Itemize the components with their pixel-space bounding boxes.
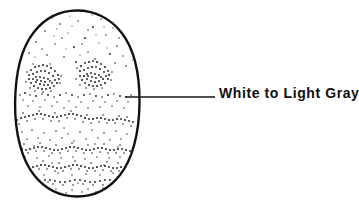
figure-container: White to Light Gray xyxy=(0,0,359,210)
specimen-illustration-svg xyxy=(0,0,359,210)
callout-label-white-to-light-gray: White to Light Gray xyxy=(219,85,359,101)
specimen-body xyxy=(15,10,139,196)
specimen-outline-path xyxy=(15,10,139,196)
